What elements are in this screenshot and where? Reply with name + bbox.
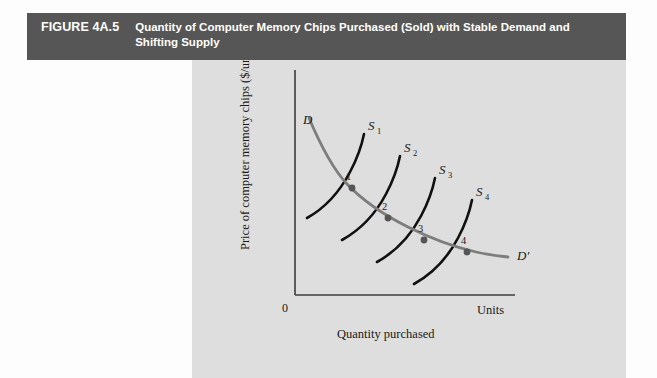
supply-curve-label-s3: S 3 xyxy=(439,162,452,180)
demand-curve-label-d-prime: D′ xyxy=(516,248,529,263)
svg-text:3: 3 xyxy=(448,170,452,180)
svg-text:S: S xyxy=(368,118,375,133)
equilibrium-point-4-label: 4 xyxy=(461,235,467,246)
equilibrium-point-1-dot xyxy=(349,185,356,192)
svg-text:2: 2 xyxy=(413,148,417,158)
svg-text:S: S xyxy=(439,162,446,177)
figure-container: FIGURE 4A.5 Quantity of Computer Memory … xyxy=(0,0,657,378)
svg-text:S: S xyxy=(404,140,411,155)
equilibrium-point-2-label: 2 xyxy=(382,201,387,212)
supply-curve-label-s2: S 2 xyxy=(404,140,417,158)
supply-curve-s1 xyxy=(307,134,364,218)
x-axis-title: Quantity purchased xyxy=(337,327,435,341)
svg-text:S: S xyxy=(476,184,483,199)
x-axis-units-label: Units xyxy=(477,303,504,317)
supply-curve-label-s4: S 4 xyxy=(476,184,490,202)
svg-text:4: 4 xyxy=(485,192,490,202)
origin-label: 0 xyxy=(282,301,288,315)
supply-curve-label-s1: S 1 xyxy=(368,118,381,136)
equilibrium-point-4-dot xyxy=(464,249,471,256)
equilibrium-point-1-label: 1 xyxy=(346,171,351,182)
equilibrium-point-3-dot xyxy=(421,237,428,244)
supply-demand-chart: Price of computer memory chips ($/unit) … xyxy=(192,60,626,378)
figure-header-banner: FIGURE 4A.5 Quantity of Computer Memory … xyxy=(27,13,626,60)
y-axis-title: Price of computer memory chips ($/unit) xyxy=(238,60,252,250)
svg-text:1: 1 xyxy=(377,126,381,136)
demand-curve-label-d: D xyxy=(302,112,313,127)
figure-number-label: FIGURE 4A.5 xyxy=(41,20,119,35)
equilibrium-point-3-label: 3 xyxy=(418,223,423,234)
equilibrium-point-2-dot xyxy=(385,215,392,222)
figure-title: Quantity of Computer Memory Chips Purcha… xyxy=(135,20,605,50)
